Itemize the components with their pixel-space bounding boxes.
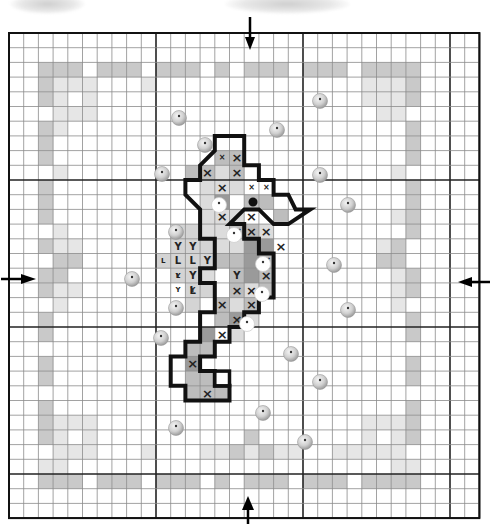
border-cell-dark bbox=[406, 268, 421, 283]
border-cell-dark bbox=[406, 77, 421, 92]
border-cell-dark bbox=[38, 195, 53, 210]
border-cell-light bbox=[215, 445, 230, 460]
border-cell-dark bbox=[318, 62, 333, 77]
symbol-y: Y bbox=[173, 241, 182, 252]
symbol-x: × bbox=[187, 356, 198, 371]
border-cell-dark bbox=[406, 151, 421, 166]
symbol-x: × bbox=[261, 224, 272, 239]
body-cell-dark bbox=[259, 239, 274, 254]
body-cell-mid bbox=[215, 254, 230, 269]
border-cell-dark bbox=[185, 474, 200, 489]
border-cell-dark bbox=[406, 62, 421, 77]
border-cell-light bbox=[362, 415, 377, 430]
fin-cell bbox=[200, 283, 215, 298]
border-cell-dark bbox=[362, 62, 377, 77]
border-cell-light bbox=[362, 430, 377, 445]
bead bbox=[313, 94, 328, 109]
symbol-l-small: L bbox=[161, 257, 166, 265]
body-cell-mid bbox=[185, 165, 200, 180]
border-cell-light bbox=[391, 107, 406, 122]
stitch-symbols: ×××××××××××××××××××××××YYYYYYYYYLLLLL bbox=[161, 150, 286, 400]
border-cell-dark bbox=[38, 151, 53, 166]
symbol-x: × bbox=[275, 239, 286, 254]
border-cell-dark bbox=[38, 239, 53, 254]
symbol-x: × bbox=[217, 180, 228, 195]
border-cell-dark bbox=[97, 62, 112, 77]
border-cell-light bbox=[38, 459, 53, 474]
body-cell-dark bbox=[244, 239, 259, 254]
border-cell-dark bbox=[406, 180, 421, 195]
body-cell-mid bbox=[200, 342, 215, 357]
symbol-x: × bbox=[231, 150, 242, 165]
border-cell-dark bbox=[406, 312, 421, 327]
border-cell-dark bbox=[171, 474, 186, 489]
body-cell-light bbox=[215, 165, 230, 180]
body-cell-light bbox=[200, 224, 215, 239]
border-cell-light bbox=[274, 445, 289, 460]
bead bbox=[256, 406, 271, 421]
body-cell-mid bbox=[230, 254, 245, 269]
border-cell-dark bbox=[406, 195, 421, 210]
symbol-x: × bbox=[217, 297, 228, 312]
symbol-x: × bbox=[231, 283, 242, 298]
body-cell-dark bbox=[244, 268, 259, 283]
body-cell-mid bbox=[185, 386, 200, 401]
border-cell-dark bbox=[38, 121, 53, 136]
cross-stitch-chart: ×××××××××××××××××××××××YYYYYYYYYLLLLL bbox=[0, 0, 492, 531]
border-cell-dark bbox=[156, 474, 171, 489]
border-cell-dark bbox=[259, 445, 274, 460]
border-cell-dark bbox=[127, 62, 142, 77]
bead-white bbox=[227, 228, 242, 243]
border-cell-light bbox=[53, 121, 68, 136]
bead bbox=[327, 258, 342, 273]
border-cell-light bbox=[391, 92, 406, 107]
symbol-l-small: L bbox=[176, 272, 181, 280]
bead bbox=[270, 123, 285, 138]
body-cell-mid bbox=[215, 386, 230, 401]
border-cell-light bbox=[141, 445, 156, 460]
border-cell-light bbox=[68, 77, 83, 92]
border-cell-dark bbox=[38, 62, 53, 77]
border-cell-light bbox=[83, 415, 98, 430]
border-cell-dark bbox=[38, 180, 53, 195]
border-cell-dark bbox=[68, 254, 83, 269]
fin-cell bbox=[185, 224, 200, 239]
border-cell-light bbox=[391, 209, 406, 224]
border-cell-light bbox=[83, 430, 98, 445]
border-cell-dark bbox=[362, 474, 377, 489]
symbol-x-small: × bbox=[263, 183, 270, 192]
border-cell-dark bbox=[38, 209, 53, 224]
bead bbox=[284, 347, 299, 362]
bead bbox=[341, 303, 356, 318]
symbol-y: Y bbox=[188, 270, 197, 281]
border-cell-light bbox=[244, 445, 259, 460]
border-cell-dark bbox=[332, 474, 347, 489]
body-cell-light bbox=[200, 209, 215, 224]
border-cell-dark bbox=[391, 254, 406, 269]
bead bbox=[313, 168, 328, 183]
border-cell-dark bbox=[38, 415, 53, 430]
border-cell-dark bbox=[318, 474, 333, 489]
border-cell-dark bbox=[38, 430, 53, 445]
body-cell-mid bbox=[215, 312, 230, 327]
border-cell-light bbox=[377, 415, 392, 430]
symbol-x: × bbox=[217, 327, 228, 342]
border-cell-dark bbox=[38, 92, 53, 107]
border-cell-light bbox=[53, 239, 68, 254]
border-cell-light bbox=[53, 107, 68, 122]
border-cell-dark bbox=[38, 356, 53, 371]
body-cell-dark bbox=[200, 327, 215, 342]
bead-white bbox=[240, 317, 255, 332]
border-cell-dark bbox=[185, 62, 200, 77]
bead bbox=[169, 301, 184, 316]
border-cell-light bbox=[68, 415, 83, 430]
border-cell-dark bbox=[406, 224, 421, 239]
border-cell-light bbox=[362, 92, 377, 107]
symbol-l: L bbox=[190, 285, 197, 296]
body-cell-light bbox=[230, 180, 245, 195]
bead-white bbox=[212, 198, 227, 213]
border-cell-dark bbox=[230, 445, 245, 460]
body-cell-mid bbox=[185, 342, 200, 357]
border-cell-dark bbox=[406, 401, 421, 416]
body-cell-light bbox=[230, 298, 245, 313]
